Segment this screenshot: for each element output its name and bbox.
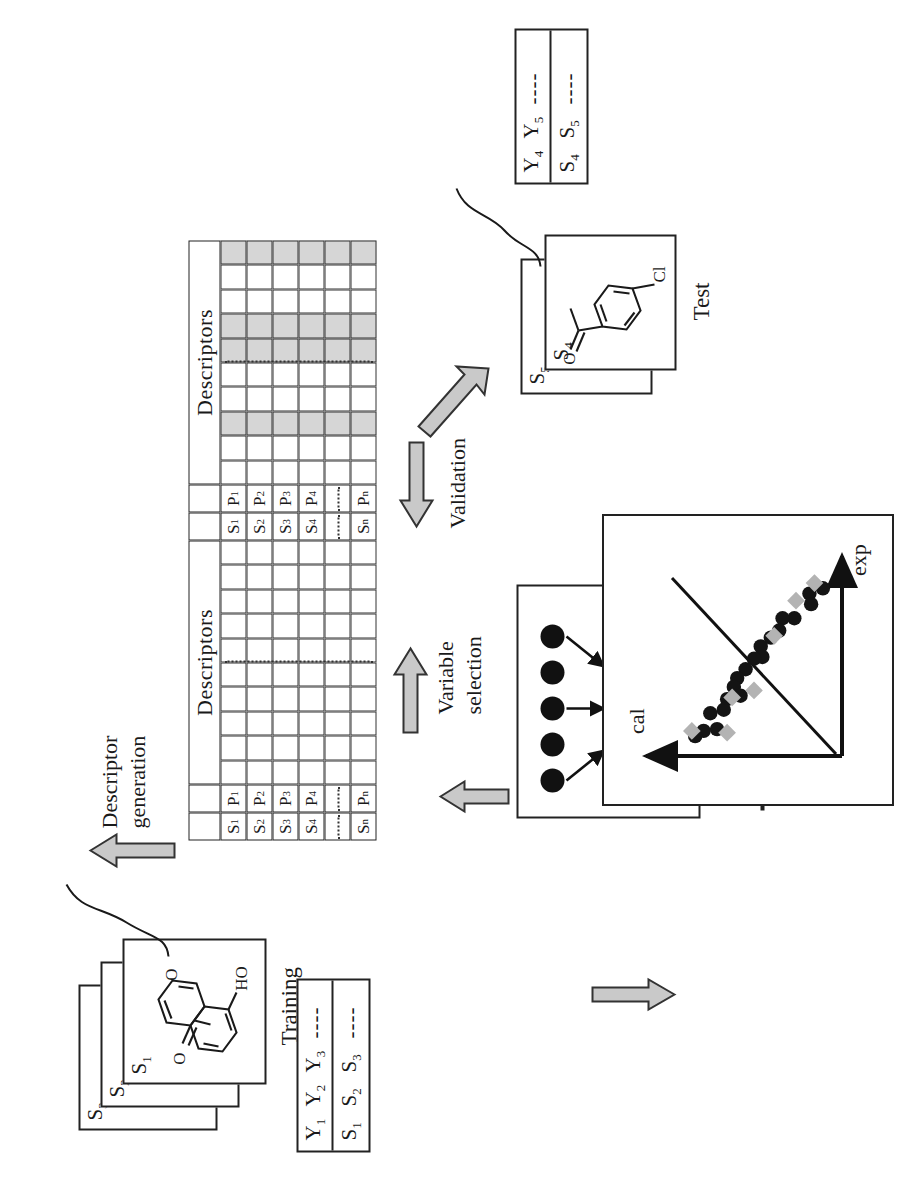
plot-container: exp cal [602, 514, 894, 806]
matrix-full-s-dots [337, 814, 339, 838]
matrix-cell [298, 338, 324, 362]
descriptors-matrix-selected: Descriptors S1 S2 S3 S4 Sn P1 P2 P3 P4 P… [188, 240, 366, 540]
matrix-cell [324, 289, 350, 313]
test-table-row-samples: S4 S5 ---- [551, 30, 586, 182]
matrix-cell [350, 460, 376, 484]
matrix-cell [246, 435, 272, 459]
svg-text:Cl: Cl [649, 266, 668, 282]
matrix-full-header-p4: P4 [298, 784, 324, 812]
matrix-cell [246, 662, 272, 686]
matrix-cell [220, 386, 246, 410]
matrix-cell [246, 313, 272, 337]
matrix-selected-header-p3: P3 [272, 484, 298, 512]
matrix-full-header-sn: Sn [350, 812, 376, 840]
matrix-cell [246, 264, 272, 288]
matrix-cell [246, 386, 272, 410]
matrix-full-p-dots [337, 786, 339, 810]
matrix-cell [272, 460, 298, 484]
matrix-full-header-p1: P1 [220, 784, 246, 812]
matrix-cell [350, 589, 376, 613]
matrix-cell [246, 460, 272, 484]
training-y-continuation: ---- [302, 1006, 327, 1038]
test-group-label: Test [688, 282, 714, 320]
matrix-cell [298, 435, 324, 459]
descriptor-generation-arrow [88, 832, 176, 868]
matrix-cell [298, 540, 324, 564]
matrix-cell [350, 313, 376, 337]
training-brace [56, 852, 176, 962]
plot-point-calibration [717, 703, 731, 717]
matrix-cell [350, 711, 376, 735]
descriptors-matrix-full-title-box: Descriptors [188, 540, 220, 784]
matrix-cell [298, 711, 324, 735]
test-y5: Y5 [518, 104, 546, 138]
matrix-selected-header-sn: Sn [350, 512, 376, 540]
training-table-row-samples: S1 S2 S3 ---- [333, 980, 368, 1150]
test-y4: Y4 [518, 138, 546, 172]
matrix-full-header-p3: P3 [272, 784, 298, 812]
matrix-selected-corner-top [188, 512, 220, 540]
matrix-cell [350, 638, 376, 662]
matrix-cell [220, 289, 246, 313]
plot-point-calibration [804, 597, 818, 611]
matrix-full-header-s3: S3 [272, 812, 298, 840]
matrix-cell [220, 662, 246, 686]
matrix-cell [298, 589, 324, 613]
matrix-cell [350, 662, 376, 686]
matrix-cell [350, 240, 376, 264]
matrix-cell [324, 264, 350, 288]
training-s2: S2 [336, 1072, 364, 1106]
matrix-cell [324, 338, 350, 362]
variable-selection-label-line2: selection [460, 636, 486, 714]
matrix-cell [220, 686, 246, 710]
matrix-cell [272, 435, 298, 459]
matrix-cell [272, 735, 298, 759]
matrix-cell [246, 289, 272, 313]
matrix-cell [272, 686, 298, 710]
matrix-cell [298, 362, 324, 386]
matrix-cell [324, 435, 350, 459]
figure-canvas: S3 S2 S1 O [0, 0, 901, 1200]
matrix-cell [350, 686, 376, 710]
matrix-selected-header-s2: S2 [246, 512, 272, 540]
matrix-cell [272, 411, 298, 435]
descriptor-generation-label-line2: generation [124, 735, 150, 828]
matrix-cell [272, 362, 298, 386]
matrix-cell [220, 435, 246, 459]
matrix-cell [272, 711, 298, 735]
matrix-selected-s-dots [337, 514, 339, 538]
matrix-selected-header-pn: Pn [350, 484, 376, 512]
matrix-cell [246, 411, 272, 435]
test-s-continuation: ---- [556, 72, 581, 104]
matrix-cell [220, 460, 246, 484]
matrix-cell [298, 662, 324, 686]
descriptors-matrix-full-title: Descriptors [191, 609, 217, 716]
matrix-cell [272, 564, 298, 588]
svg-text:O: O [169, 1052, 188, 1064]
matrix-cell [298, 760, 324, 784]
matrix-cell [350, 338, 376, 362]
matrix-cell [324, 686, 350, 710]
matrix-cell [220, 589, 246, 613]
matrix-cell [350, 264, 376, 288]
matrix-cell [272, 240, 298, 264]
descriptors-matrix-full: Descriptors S1 S2 S3 S4 Sn P1 P2 P3 P4 P… [188, 540, 366, 840]
descriptors-matrix-selected-title: Descriptors [191, 309, 217, 416]
matrix-cell [246, 613, 272, 637]
matrix-cell [246, 362, 272, 386]
matrix-cell [220, 338, 246, 362]
matrix-cell [272, 313, 298, 337]
training-molecule-chromone: O O HO [122, 942, 262, 1084]
matrix-cell [324, 735, 350, 759]
matrix-cell [298, 264, 324, 288]
matrix-selected-p-dots [337, 486, 339, 510]
model-to-plot-arrow [438, 778, 510, 814]
matrix-selected-header-p4: P4 [298, 484, 324, 512]
matrix-cell [272, 638, 298, 662]
matrix-full-header-s1: S1 [220, 812, 246, 840]
matrix-cell [324, 313, 350, 337]
matrix-cell [298, 564, 324, 588]
matrix-cell [324, 240, 350, 264]
test-s5: S5 [554, 104, 582, 138]
matrix-selected-header-p2: P2 [246, 484, 272, 512]
